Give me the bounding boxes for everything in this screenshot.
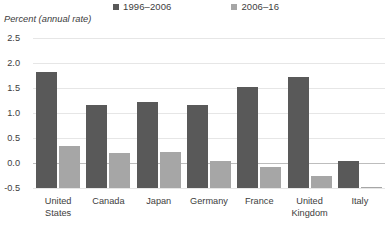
bar-2006-16-canada [109, 153, 130, 189]
bar-1996-2006-united-states [36, 72, 57, 188]
bar-1996-2006-japan [137, 102, 158, 189]
bar-group-france [234, 38, 284, 188]
xlabel-united-states: United States [33, 196, 83, 219]
bar-2006-16-italy [361, 187, 382, 188]
bar-1996-2006-canada [86, 105, 107, 188]
legend-label-1996-2006: 1996–2006 [123, 1, 171, 12]
gridline-neg-0-5 [33, 188, 385, 189]
xlabel-germany: Germany [184, 196, 234, 219]
bar-2006-16-germany [210, 161, 231, 189]
x-axis-labels: United States Canada Japan Germany Franc… [33, 196, 385, 219]
bar-group-japan [134, 38, 184, 188]
bar-groups [33, 38, 385, 163]
bar-group-canada [83, 38, 133, 188]
ytick-1-0: 1.0 [0, 108, 20, 118]
ytick-2-5: 2.5 [0, 33, 20, 43]
bar-chart: 1996–2006 2006–16 Percent (annual rate) … [0, 0, 391, 247]
bar-group-united-states [33, 38, 83, 188]
xlabel-france: France [234, 196, 284, 219]
legend-swatch-1996-2006 [113, 4, 119, 10]
xlabel-italy: Italy [335, 196, 385, 219]
bar-1996-2006-italy [338, 161, 359, 189]
legend-item-1: 1996–2006 [113, 1, 171, 12]
legend-item-2: 2006–16 [231, 1, 279, 12]
y-axis-title: Percent (annual rate) [4, 14, 91, 24]
xlabel-canada: Canada [83, 196, 133, 219]
plot-area: 2.5 2.0 1.5 1.0 0.5 0.0 -0.5 [33, 38, 385, 188]
bar-2006-16-france [260, 167, 281, 189]
ytick-0-0: 0.0 [0, 158, 20, 168]
bar-1996-2006-united-kingdom [288, 77, 309, 188]
bar-2006-16-japan [160, 152, 181, 188]
legend-swatch-2006-16 [231, 4, 237, 10]
ytick-neg-0-5: -0.5 [0, 183, 20, 193]
ytick-1-5: 1.5 [0, 83, 20, 93]
bar-2006-16-united-kingdom [311, 176, 332, 189]
bar-group-united-kingdom [284, 38, 334, 188]
xlabel-united-kingdom: United Kingdom [284, 196, 334, 219]
ytick-2-0: 2.0 [0, 58, 20, 68]
chart-legend: 1996–2006 2006–16 [113, 1, 279, 12]
legend-label-2006-16: 2006–16 [241, 1, 279, 12]
ytick-0-5: 0.5 [0, 133, 20, 143]
bar-group-germany [184, 38, 234, 188]
xlabel-japan: Japan [134, 196, 184, 219]
bar-1996-2006-france [237, 87, 258, 189]
bar-2006-16-united-states [59, 146, 80, 188]
bar-group-italy [335, 38, 385, 188]
bar-1996-2006-germany [187, 105, 208, 189]
